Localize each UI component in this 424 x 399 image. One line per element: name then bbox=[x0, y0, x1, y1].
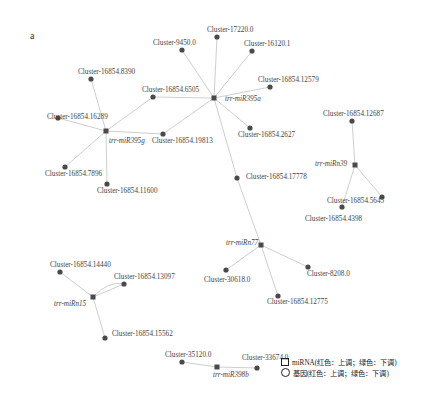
gene-label: Cluster-16854.19813 bbox=[152, 138, 213, 145]
gene-label: Cluster-16120.1 bbox=[244, 41, 290, 48]
circle-icon bbox=[281, 368, 290, 377]
edge bbox=[214, 51, 252, 98]
edge bbox=[153, 97, 214, 98]
gene-label: Cluster-16854.12775 bbox=[267, 299, 328, 306]
mirna-label: trr-miRn15 bbox=[54, 301, 86, 308]
gene-label: Cluster-9450.0 bbox=[153, 40, 196, 47]
gene-node[interactable] bbox=[179, 47, 184, 52]
gene-label: Cluster-16854.16289 bbox=[47, 114, 108, 121]
edge bbox=[106, 131, 107, 184]
gene-node[interactable] bbox=[247, 125, 252, 130]
gene-label: Cluster-35120.0 bbox=[165, 352, 211, 359]
mirna-node[interactable] bbox=[212, 96, 217, 101]
edge bbox=[93, 297, 105, 338]
edge bbox=[226, 245, 261, 270]
gene-label: Cluster-16854.14440 bbox=[50, 262, 111, 269]
gene-node[interactable] bbox=[57, 269, 62, 274]
edge bbox=[163, 98, 214, 134]
mirna-label: trr-miRn77 bbox=[226, 240, 258, 247]
edge bbox=[65, 131, 106, 167]
mirna-node[interactable] bbox=[91, 295, 96, 300]
legend-gene-label: 基因(红色：上调；绿色：下调) bbox=[293, 368, 389, 378]
gene-label: Cluster-16854.8390 bbox=[78, 69, 135, 76]
mirna-label: trr-miRn39 bbox=[315, 161, 347, 168]
gene-node[interactable] bbox=[179, 359, 184, 364]
edge bbox=[214, 98, 237, 178]
gene-label: Cluster-30618.0 bbox=[204, 277, 250, 284]
gene-node[interactable] bbox=[121, 281, 126, 286]
gene-label: Cluster-16854.5645 bbox=[327, 198, 384, 205]
gene-node[interactable] bbox=[223, 267, 228, 272]
gene-label: Cluster-16854.12579 bbox=[258, 77, 319, 84]
legend-mirna-label: miRNA(红色：上调；绿色：下调) bbox=[292, 357, 397, 367]
gene-label: Cluster-16854.6505 bbox=[142, 87, 199, 94]
edge bbox=[355, 165, 382, 197]
edge bbox=[214, 37, 217, 98]
gene-label: Cluster-16854.12687 bbox=[323, 111, 384, 118]
gene-node[interactable] bbox=[267, 84, 272, 89]
edge bbox=[217, 367, 257, 368]
mirna-label: trr-miR395a bbox=[225, 96, 261, 103]
legend: miRNA(红色：上调；绿色：下调) 基因(红色：上调；绿色：下调) bbox=[281, 356, 397, 378]
mirna-label: trr-miR395g bbox=[109, 138, 145, 145]
gene-node[interactable] bbox=[349, 118, 354, 123]
edge bbox=[91, 79, 106, 131]
gene-node[interactable] bbox=[62, 164, 67, 169]
gene-node[interactable] bbox=[150, 94, 155, 99]
legend-item-gene: 基因(红色：上调；绿色：下调) bbox=[281, 367, 397, 378]
gene-node[interactable] bbox=[102, 335, 107, 340]
gene-node[interactable] bbox=[249, 48, 254, 53]
gene-label: Cluster-16854.11600 bbox=[97, 188, 157, 195]
edge bbox=[106, 97, 153, 131]
gene-node[interactable] bbox=[160, 131, 165, 136]
edge bbox=[60, 272, 93, 297]
edge bbox=[352, 121, 355, 165]
square-icon bbox=[281, 358, 289, 366]
gene-label: Cluster-16854.7896 bbox=[45, 171, 102, 178]
gene-node[interactable] bbox=[234, 175, 239, 180]
mirna-label: trr-miR398b bbox=[213, 372, 249, 379]
gene-node[interactable] bbox=[104, 181, 109, 186]
mirna-node[interactable] bbox=[259, 243, 264, 248]
gene-label: Cluster-16854.17778 bbox=[246, 174, 307, 181]
edge bbox=[106, 131, 163, 134]
gene-node[interactable] bbox=[305, 264, 310, 269]
legend-item-mirna: miRNA(红色：上调；绿色：下调) bbox=[281, 356, 397, 367]
mirna-node[interactable] bbox=[353, 163, 358, 168]
mirna-node[interactable] bbox=[104, 129, 109, 134]
edge bbox=[261, 245, 308, 267]
edge bbox=[182, 362, 217, 367]
gene-node[interactable] bbox=[214, 34, 219, 39]
gene-node[interactable] bbox=[88, 76, 93, 81]
mirna-node[interactable] bbox=[215, 365, 220, 370]
gene-label: Cluster-16854.15562 bbox=[112, 331, 173, 338]
gene-label: Cluster-16854.2627 bbox=[238, 132, 295, 139]
edge bbox=[237, 178, 261, 245]
gene-node[interactable] bbox=[254, 365, 259, 370]
edge bbox=[261, 245, 278, 296]
gene-label: Cluster-8208.0 bbox=[307, 271, 350, 278]
gene-label: Cluster-16854.4398 bbox=[305, 216, 362, 223]
gene-label: Cluster-16854.13097 bbox=[114, 274, 175, 281]
gene-label: Cluster-17220.0 bbox=[207, 27, 253, 34]
